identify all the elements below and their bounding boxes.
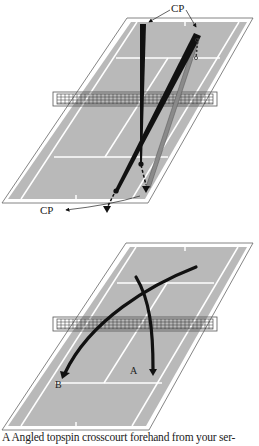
- bottom-court: [2, 243, 253, 430]
- tennis-diagram-figure: CP CP: [0, 0, 259, 446]
- label-a: A: [130, 365, 138, 376]
- cp-label-bottom: CP: [40, 204, 53, 216]
- top-court: [2, 18, 253, 203]
- figure-caption: A Angled topspin crosscourt forehand fro…: [2, 431, 259, 443]
- label-b: B: [55, 379, 62, 390]
- bottom-court-surface: [8, 247, 247, 426]
- cp-label-top: CP: [171, 2, 184, 14]
